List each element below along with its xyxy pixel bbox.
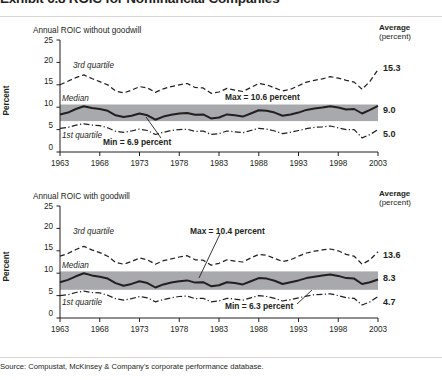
source-divider: [0, 357, 442, 358]
y-axis-label: Percent: [2, 251, 11, 281]
exhibit-title-bar: Exhibit 6.8 ROIC for Nonfinancial Compan…: [0, 0, 442, 12]
series-label-median: Median: [62, 261, 89, 270]
y-tick-0: 0: [36, 309, 53, 318]
average-header-line2: (percent): [379, 33, 439, 42]
chart-panel-with-goodwill: Annual ROIC with goodwill Average (perce…: [0, 192, 442, 354]
plot-area-with-goodwill: [60, 206, 378, 318]
series-label-third-quartile: 3rd quartile: [73, 227, 114, 236]
max-callout: Max = 10.6 percent: [225, 92, 300, 102]
x-tick-1973: 1973: [123, 159, 157, 168]
series-label-median: Median: [62, 94, 89, 103]
x-tick-1968: 1968: [83, 325, 117, 334]
series-label-third-quartile: 3rd quartile: [73, 61, 114, 70]
x-tick-1998: 1998: [321, 325, 355, 334]
x-axis-ticks: [60, 152, 378, 156]
min-callout: Min = 6.9 percent: [103, 137, 171, 147]
x-tick-1963: 1963: [43, 325, 77, 334]
x-tick-1973: 1973: [123, 325, 157, 334]
chart-subtitle: Annual ROIC without goodwill: [33, 26, 141, 35]
x-tick-2003: 2003: [361, 325, 395, 334]
x-tick-1988: 1988: [242, 159, 276, 168]
y-tick-10: 10: [36, 265, 53, 274]
average-header-line2: (percent): [379, 199, 439, 208]
y-tick-20: 20: [36, 56, 53, 65]
x-tick-1978: 1978: [162, 325, 196, 334]
series-third-quartile: [60, 70, 378, 94]
max-callout-leader: [199, 234, 220, 278]
y-tick-0: 0: [36, 143, 53, 152]
y-axis-ticks: [57, 40, 61, 152]
x-tick-1998: 1998: [321, 159, 355, 168]
y-tick-5: 5: [36, 287, 53, 296]
average-median: 9.0: [383, 105, 396, 115]
average-column-header: Average (percent): [379, 24, 439, 42]
y-axis-ticks: [57, 206, 61, 318]
y-tick-25: 25: [36, 36, 53, 45]
plot-area-without-goodwill: [60, 40, 378, 152]
y-tick-10: 10: [36, 99, 53, 108]
chart-subtitle: Annual ROIC with goodwill: [33, 192, 130, 201]
x-tick-1963: 1963: [43, 159, 77, 168]
max-callout: Max = 10.4 percent: [190, 226, 265, 236]
y-tick-25: 25: [36, 202, 53, 211]
series-first-quartile: [60, 291, 378, 305]
y-axis-label: Percent: [2, 85, 11, 115]
series-third-quartile: [60, 246, 378, 265]
series-label-first-quartile: 1st quartile: [62, 131, 102, 140]
series-first-quartile: [60, 124, 378, 138]
average-first-quartile: 4.7: [383, 297, 396, 307]
average-third-quartile: 13.6: [383, 250, 401, 260]
x-tick-1968: 1968: [83, 159, 117, 168]
y-tick-20: 20: [36, 222, 53, 231]
exhibit-container: Exhibit 6.8 ROIC for Nonfinancial Compan…: [0, 0, 442, 380]
average-column-header: Average (percent): [379, 190, 439, 208]
x-tick-1988: 1988: [242, 325, 276, 334]
y-tick-15: 15: [36, 243, 53, 252]
source-note: Source: Compustat, McKinsey & Company's …: [0, 362, 442, 371]
average-median: 8.3: [383, 273, 396, 283]
x-tick-1993: 1993: [282, 159, 316, 168]
x-tick-1993: 1993: [282, 325, 316, 334]
min-callout: Min = 6.3 percent: [225, 301, 293, 311]
x-tick-1983: 1983: [202, 159, 236, 168]
average-first-quartile: 5.0: [383, 129, 396, 139]
y-tick-15: 15: [36, 77, 53, 86]
x-tick-1978: 1978: [162, 159, 196, 168]
page-title: Exhibit 6.8 ROIC for Nonfinancial Compan…: [0, 0, 279, 6]
y-tick-5: 5: [36, 121, 53, 130]
average-third-quartile: 15.3: [383, 63, 401, 73]
series-label-first-quartile: 1st quartile: [62, 298, 102, 307]
title-divider: [0, 16, 442, 17]
line-chart-svg: [60, 40, 378, 152]
x-tick-2003: 2003: [361, 159, 395, 168]
line-chart-svg: [60, 206, 378, 318]
chart-panel-without-goodwill: Annual ROIC without goodwill Average (pe…: [0, 26, 442, 188]
x-axis-ticks: [60, 318, 378, 322]
x-tick-1983: 1983: [202, 325, 236, 334]
min-callout-leader: [297, 290, 312, 304]
